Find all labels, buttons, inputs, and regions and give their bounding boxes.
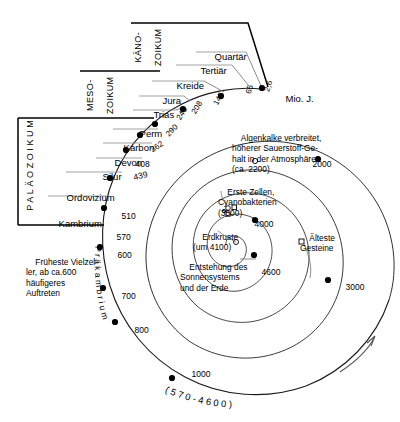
period-ordovizium-text: Ordovizium — [67, 192, 115, 203]
boundary-800-text: 800 — [134, 325, 148, 335]
annotation-first-cells: Erste Zellen, Cyanobakterien (3500) — [218, 176, 277, 218]
era-label-kaenozoikum: KÄNO- ZOIKUM — [123, 25, 169, 81]
annotation-oldest-rocks: Älteste Gesteine — [300, 222, 335, 254]
boundary-2-6-text: 2,6 — [262, 79, 274, 92]
time-direction-arrow — [340, 338, 374, 372]
boundary-510-text: 510 — [121, 211, 135, 221]
boundary-65-text: 65 — [244, 84, 255, 95]
annotation-algae-oxygen-text: Algenkalke verbreitet, höherer Sauerstof… — [232, 133, 321, 175]
annotation-first-cells-text: Erste Zellen, Cyanobakterien (3500) — [218, 187, 277, 218]
period-silur-text: Silur — [103, 171, 122, 182]
boundary-4600-text: 4600 — [261, 267, 280, 277]
geologic-time-spiral-diagram: KÄNO- ZOIKUM MESO- ZOIKUM PALÄOZOIKUM Qu… — [0, 0, 400, 422]
period-label-ordovizium: Ordovizium — [56, 182, 115, 203]
annotation-oldest-rocks-text: Älteste Gesteine — [300, 233, 335, 254]
marker-1000 — [169, 375, 175, 381]
era-mesozoikum-line1: MESO- — [85, 79, 95, 111]
era-label-mesozoikum: MESO- ZOIKUM — [75, 73, 121, 129]
boundary-3000-text: 3000 — [345, 282, 364, 292]
boundary-value-3000: 3000 — [336, 273, 364, 292]
boundary-value-1000: 1000 — [182, 360, 210, 379]
annotation-solar-system-text: Entstehung des Sonnensystems und der Erd… — [180, 262, 248, 293]
era-mesozoikum-line2: ZOIKUM — [105, 77, 115, 114]
marker-700 — [100, 285, 106, 291]
boundary-value-700: 700 — [112, 282, 136, 301]
era-label-palaeozoikum: PALÄOZOIKUM — [15, 127, 45, 231]
annotation-multicellular-text: Früheste Vielzel- ler, ab ca.600 häufige… — [26, 257, 98, 299]
time-direction-arrowhead — [367, 336, 375, 346]
boundary-600-text: 600 — [117, 250, 131, 260]
boundary-4000-text: 4000 — [254, 219, 273, 229]
unit-label-text: Mio. J. — [286, 93, 314, 104]
boundary-value-800: 800 — [125, 316, 149, 335]
annotation-solar-system: Entstehung des Sonnensystems und der Erd… — [180, 251, 248, 293]
annotation-crust: Erdkruste (um 4100) — [193, 221, 238, 253]
annotation-multicellular: Früheste Vielzel- ler, ab ca.600 häufige… — [26, 246, 98, 299]
annotation-algae-oxygen: Algenkalke verbreitet, höherer Sauerstof… — [232, 122, 321, 175]
boundary-value-570: 570 — [107, 223, 131, 242]
boundary-1000-text: 1000 — [191, 369, 210, 379]
era-kaenozoikum-line1: KÄNO- — [133, 32, 143, 63]
period-tertiaer-text: Tertiär — [200, 65, 226, 76]
marker-3000 — [325, 277, 331, 283]
period-kambrium-text: Kambrium — [59, 218, 102, 229]
boundary-value-510: 510 — [112, 202, 136, 221]
unit-label-mio-j: Mio. J. — [275, 83, 314, 104]
era-palaeozoikum-line1: PALÄOZOIKUM — [25, 118, 35, 211]
period-label-kambrium: Kambrium — [48, 208, 102, 229]
period-label-silur: Silur — [92, 161, 122, 182]
annotation-crust-text: Erdkruste (um 4100) — [193, 232, 238, 253]
boundary-700-text: 700 — [121, 291, 135, 301]
marker-800 — [112, 319, 118, 325]
era-kaenozoikum-line2: ZOIKUM — [153, 29, 163, 66]
boundary-value-4600: 4600 — [252, 258, 280, 277]
boundary-value-600: 600 — [108, 241, 132, 260]
